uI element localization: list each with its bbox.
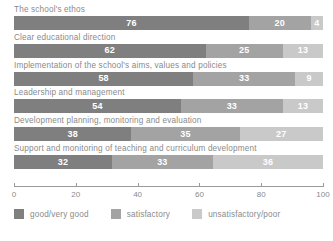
bar-segment-value: 20 xyxy=(275,19,285,28)
bar-row-label: Implementation of the school's aims, val… xyxy=(14,60,227,71)
x-axis-tick-label: 40 xyxy=(133,190,142,199)
plot-area: The school's ethos76204Clear educational… xyxy=(14,4,323,182)
bar-row-label: Clear educational direction xyxy=(14,32,115,43)
legend-item-label: unsatisfactory/poor xyxy=(208,210,280,219)
x-axis-tick xyxy=(199,183,200,187)
bar-row-label: The school's ethos xyxy=(14,4,85,15)
bar-segment-good-very-good: 58 xyxy=(14,72,193,86)
bar-segment-good-very-good: 32 xyxy=(14,155,112,169)
bar-segment-value: 33 xyxy=(239,74,249,83)
bar-segment-good-very-good: 38 xyxy=(14,127,131,141)
x-axis-tick xyxy=(14,183,15,187)
bar-segment-satisfactory: 25 xyxy=(206,44,283,58)
bar-segment-satisfactory: 33 xyxy=(112,155,213,169)
bar-segment-good-very-good: 54 xyxy=(14,99,181,113)
bar-segment-value: 13 xyxy=(298,46,308,55)
bar-segment-value: 33 xyxy=(157,158,167,167)
legend-swatch-icon xyxy=(111,209,121,219)
stacked-bar-chart: The school's ethos76204Clear educational… xyxy=(0,0,333,241)
x-axis-tick xyxy=(138,183,139,187)
bar-segment-value: 54 xyxy=(92,102,102,111)
bar-segment-value: 32 xyxy=(58,158,68,167)
bar-segment-unsatisfactory-poor: 9 xyxy=(295,72,323,86)
bar-segment-value: 27 xyxy=(276,130,286,139)
stacked-bar: 383527 xyxy=(14,127,323,141)
legend-swatch-icon xyxy=(14,209,24,219)
bar-segment-unsatisfactory-poor: 27 xyxy=(240,127,323,141)
legend-item-label: good/very good xyxy=(30,210,89,219)
bar-segment-value: 62 xyxy=(105,46,115,55)
stacked-bar: 622513 xyxy=(14,44,323,58)
x-axis-tick xyxy=(323,183,324,187)
legend-item-label: satisfactory xyxy=(127,210,170,219)
bar-segment-unsatisfactory-poor: 13 xyxy=(283,99,323,113)
legend-item[interactable]: satisfactory xyxy=(111,209,170,219)
legend-item[interactable]: unsatisfactory/poor xyxy=(192,209,280,219)
bar-segment-unsatisfactory-poor: 36 xyxy=(213,155,323,169)
legend-item[interactable]: good/very good xyxy=(14,209,89,219)
bar-row-label: Development planning, monitoring and eva… xyxy=(14,115,202,126)
bar-segment-value: 35 xyxy=(180,130,190,139)
bar-segment-unsatisfactory-poor: 13 xyxy=(283,44,323,58)
bar-segment-unsatisfactory-poor: 4 xyxy=(311,16,323,30)
bar-segment-value: 38 xyxy=(68,130,78,139)
chart-legend: good/very goodsatisfactoryunsatisfactory… xyxy=(14,209,302,219)
bar-segment-value: 36 xyxy=(263,158,273,167)
bar-row-label: Support and monitoring of teaching and c… xyxy=(14,143,257,154)
bar-segment-value: 25 xyxy=(239,46,249,55)
x-axis-tick-label: 20 xyxy=(71,190,80,199)
bar-segment-satisfactory: 35 xyxy=(131,127,239,141)
bar-segment-satisfactory: 33 xyxy=(181,99,283,113)
bar-segment-value: 58 xyxy=(98,74,108,83)
x-axis-tick-label: 60 xyxy=(195,190,204,199)
x-axis-tick xyxy=(261,183,262,187)
bar-segment-good-very-good: 62 xyxy=(14,44,206,58)
bar-row-label: Leadership and management xyxy=(14,87,125,98)
bar-segment-value: 33 xyxy=(227,102,237,111)
bar-segment-satisfactory: 33 xyxy=(193,72,295,86)
x-axis-tick-label: 100 xyxy=(316,190,329,199)
legend-swatch-icon xyxy=(192,209,202,219)
bar-segment-satisfactory: 20 xyxy=(249,16,311,30)
stacked-bar: 323336 xyxy=(14,155,323,169)
stacked-bar: 543313 xyxy=(14,99,323,113)
bar-segment-value: 4 xyxy=(314,19,319,28)
bar-segment-value: 13 xyxy=(298,102,308,111)
bar-segment-value: 76 xyxy=(126,19,136,28)
bar-segment-value: 9 xyxy=(306,74,311,83)
x-axis-tick xyxy=(76,183,77,187)
x-axis-tick-label: 80 xyxy=(257,190,266,199)
bar-segment-good-very-good: 76 xyxy=(14,16,249,30)
x-axis: 020406080100 xyxy=(14,186,323,187)
stacked-bar: 76204 xyxy=(14,16,323,30)
stacked-bar: 58339 xyxy=(14,72,323,86)
x-axis-tick-label: 0 xyxy=(12,190,16,199)
